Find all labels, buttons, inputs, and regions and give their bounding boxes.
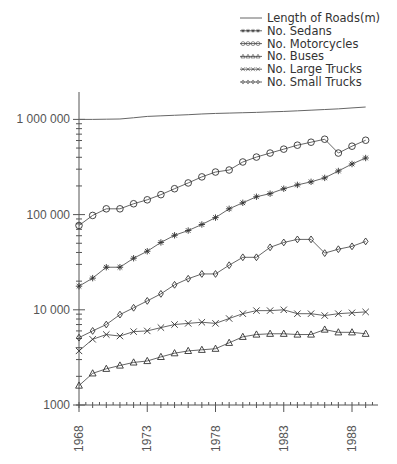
data-point-star	[171, 232, 177, 238]
data-point-circle	[362, 137, 369, 144]
legend-item: No. Small Trucks	[240, 75, 362, 89]
data-point-star	[322, 175, 328, 181]
x-tick-label: 1983	[277, 425, 291, 452]
x-tick-label: 1978	[209, 425, 223, 452]
legend-marker	[246, 29, 250, 33]
data-point-star	[246, 29, 250, 33]
x-tick-label: 1988	[345, 425, 359, 452]
data-point-star	[89, 275, 95, 281]
y-tick-label: 10 000	[33, 303, 70, 317]
legend: Length of Roads(m)No. SedansNo. Motorcyc…	[240, 11, 380, 89]
series-length-of-roads-m	[79, 107, 366, 119]
chart: Length of Roads(m)No. SedansNo. Motorcyc…	[0, 0, 397, 464]
x-tick-label: 1968	[72, 425, 86, 452]
data-point-star	[226, 206, 232, 212]
data-point-star	[294, 182, 300, 188]
legend-label: No. Small Trucks	[267, 75, 362, 89]
data-point-star	[281, 186, 287, 192]
data-point-star	[253, 194, 259, 200]
series-line	[79, 107, 366, 119]
data-point-star	[267, 190, 273, 196]
plot-area	[76, 107, 369, 388]
data-point-star	[256, 29, 260, 33]
data-point-star	[241, 29, 245, 33]
data-point-x	[226, 315, 232, 321]
data-point-x	[89, 336, 95, 342]
data-point-star	[349, 161, 355, 167]
data-point-star	[158, 239, 164, 245]
series-line	[79, 139, 366, 225]
data-point-star	[308, 179, 314, 185]
data-point-star	[335, 168, 341, 174]
data-point-star	[199, 221, 205, 227]
series-no-large-trucks	[76, 307, 369, 355]
data-point-star	[103, 264, 109, 270]
data-point-star	[212, 214, 218, 220]
legend-marker	[241, 29, 245, 33]
y-ticks: 100010 000100 0001 000 000	[17, 112, 85, 412]
y-tick-label: 1 000 000	[17, 112, 71, 126]
data-point-star	[76, 283, 82, 289]
data-point-star	[144, 248, 150, 254]
legend-marker	[251, 29, 255, 33]
data-point-star	[251, 29, 255, 33]
series-no-motorcycles	[76, 136, 369, 229]
data-point-star	[117, 264, 123, 270]
y-tick-label: 1000	[43, 398, 70, 412]
data-point-star	[130, 255, 136, 261]
series-no-small-trucks	[77, 236, 368, 341]
legend-marker	[256, 29, 260, 33]
y-tick-label: 100 000	[27, 208, 71, 222]
x-tick-label: 1973	[140, 425, 154, 452]
data-point-star	[362, 155, 368, 161]
x-ticks: 19681973197819831988	[72, 402, 372, 452]
axes	[76, 92, 378, 408]
data-point-star	[240, 200, 246, 206]
data-point-star	[185, 227, 191, 233]
